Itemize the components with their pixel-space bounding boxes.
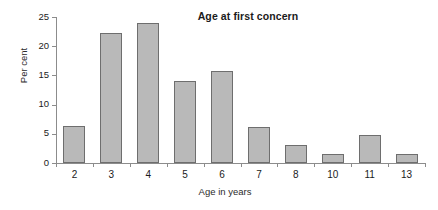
y-tick-mark [52,17,56,18]
bar [63,126,85,163]
bar [359,135,381,163]
x-tick-mark [351,163,352,167]
x-axis-label: Age in years [150,186,300,197]
x-tick-label: 13 [401,169,412,180]
x-tick-label: 6 [219,169,225,180]
x-tick-label: 5 [182,169,188,180]
y-tick-label: 0 [44,157,49,168]
y-tick-label: 10 [38,98,49,109]
bar [322,154,344,163]
x-tick-mark [388,163,389,167]
x-tick-mark [425,163,426,167]
x-tick-label: 10 [327,169,338,180]
x-tick-label: 11 [364,169,374,180]
bar [174,81,196,163]
x-tick-mark [241,163,242,167]
y-tick-label: 20 [38,40,49,51]
bar [137,23,159,163]
y-tick-label: 5 [44,127,49,138]
x-tick-mark [56,163,57,167]
y-axis-line [56,17,57,164]
y-tick-mark [52,105,56,106]
x-tick-label: 4 [145,169,151,180]
x-tick-mark [277,163,278,167]
x-tick-mark [130,163,131,167]
bar-chart: Age at first concern Per cent Age in yea… [0,0,438,210]
y-tick-mark [52,46,56,47]
x-tick-label: 3 [109,169,115,180]
y-tick-label: 25 [38,11,49,22]
plot-area: 0510152025 2345678101113 [56,17,425,163]
x-tick-mark [314,163,315,167]
y-tick-label: 15 [38,69,49,80]
x-tick-label: 2 [72,169,78,180]
x-tick-mark [204,163,205,167]
x-tick-mark [93,163,94,167]
y-tick-mark [52,75,56,76]
x-tick-label: 7 [256,169,262,180]
x-tick-label: 8 [293,169,299,180]
bar [248,127,270,163]
bar [396,154,418,163]
y-tick-mark [52,134,56,135]
x-tick-mark [167,163,168,167]
y-axis-label: Per cent [18,36,29,96]
bar [285,145,307,163]
bar [100,33,122,163]
bar [211,71,233,163]
